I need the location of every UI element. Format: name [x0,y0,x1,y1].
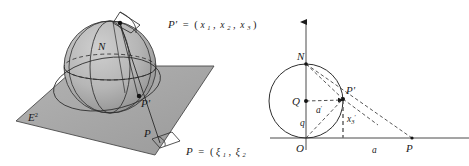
eq-equals: = [183,19,189,30]
eq-coord3-sub: 3 [246,24,251,31]
eq2-equals: = [198,146,204,157]
eq-comma1: , [213,19,216,30]
eq-open-paren: ( [194,19,198,31]
right-label-north-pole: N [296,50,305,62]
eq-coord3: x [239,20,245,30]
eq2-coord1: ξ [216,147,221,158]
stereographic-projection-figure: N P' P E2 P' = ( x 1 , x 2 , x 3 [0,0,469,166]
right-label-height: x3′ [346,113,356,125]
left-label-plane-superscript: 2 [35,111,38,118]
eq2-comma1: , [229,146,232,157]
eq2-open-paren: ( [210,146,214,158]
right-label-chord: q [300,118,305,128]
eq-close-paren: ) [253,19,257,31]
right-label-radius-prime: ′ [321,104,323,111]
marker-point-Pprime [341,97,345,101]
right-label-center: Q [292,95,300,107]
figure-canvas: N P' P E2 P' = ( x 1 , x 2 , x 3 [0,0,469,166]
eq2-coord2-sub: 2 [243,151,247,158]
left-label-point-in-plane: P [143,127,151,139]
eq2-coord2: ξ [236,147,241,158]
left-label-north-pole: N [97,40,106,52]
eq2-lhs-P: P [185,145,193,157]
eq-comma2: , [233,19,236,30]
eq2-coord1-sub: 1 [223,151,226,158]
chord-O-to-Pprime [306,99,343,138]
right-label-origin: O [296,142,304,154]
left-panel-3d-diagram: N P' P E2 P' = ( x 1 , x 2 , x 3 [16,12,257,159]
right-label-height-prime: ′ [354,113,356,120]
marker-center-Q [304,99,308,103]
eq-coord1: x [199,20,205,30]
right-panel-2d-diagram: N Q O P' P a′ q x3′ a [269,22,469,155]
right-label-point-on-axis: P [405,142,413,154]
projection-line-N-to-P [306,64,412,138]
right-label-point-on-circle: P' [345,84,356,96]
point-north-marker [118,21,122,25]
radius-Q-to-Pprime [306,100,343,101]
left-equation-plane-point: P = ( ξ 1 , ξ 2 [185,145,247,159]
eq-coord2: x [219,20,225,30]
eq-coord2-sub: 2 [227,24,231,31]
right-label-radius: a′ [316,104,323,115]
eq-lhs-Pprime: P' [167,18,178,30]
marker-north-N [304,62,308,66]
left-equation-sphere-point: P' = ( x 1 , x 2 , x 3 ) [167,18,257,32]
eq-coord1-sub: 1 [207,24,210,31]
right-label-axis-distance: a [372,145,377,155]
left-label-point-on-sphere: P' [140,97,151,109]
marker-point-P [410,136,413,139]
